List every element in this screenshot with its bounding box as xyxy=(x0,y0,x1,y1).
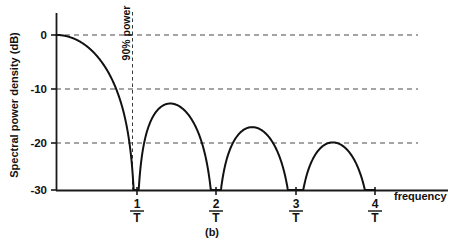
y-tick-label-0: 0 xyxy=(41,29,47,41)
spectral-density-curve xyxy=(57,35,375,190)
x-tick-label-3overT: 3 T xyxy=(289,197,303,225)
x-tick-3overT-denominator: T xyxy=(292,211,300,225)
x-tick-label-2overT: 2 T xyxy=(209,197,223,225)
y-tick-label-minus10: -10 xyxy=(30,83,47,95)
x-axis-title: frequency xyxy=(394,190,447,202)
x-tick-3overT-numerator: 3 xyxy=(293,197,300,211)
x-tick-2overT-numerator: 2 xyxy=(213,197,220,211)
axes xyxy=(56,13,448,191)
x-tick-1overT-denominator: T xyxy=(133,211,141,225)
x-tick-4overT-denominator: T xyxy=(371,211,379,225)
y-tick-label-minus30: -30 xyxy=(30,184,47,196)
x-tick-2overT-denominator: T xyxy=(212,211,220,225)
ninety-percent-power-label: 90% power xyxy=(120,6,132,61)
ninety-percent-power-annotation: 90% power xyxy=(120,6,133,190)
spectral-power-density-figure: 0 -10 -20 -30 Spectral power density (dB… xyxy=(0,0,452,245)
x-tick-1overT-numerator: 1 xyxy=(134,197,141,211)
x-tick-4overT-numerator: 4 xyxy=(372,197,379,211)
y-axis-title: Spectral power density (dB) xyxy=(8,32,20,178)
x-tick-label-4overT: 4 T xyxy=(368,197,382,225)
y-tick-label-minus20: -20 xyxy=(30,137,47,149)
y-tick-labels: 0 -10 -20 -30 xyxy=(30,29,47,196)
x-tick-label-1overT: 1 T xyxy=(130,197,144,225)
gridlines xyxy=(56,35,418,143)
spectrum-plot-svg: 0 -10 -20 -30 Spectral power density (dB… xyxy=(0,0,452,245)
figure-caption: (b) xyxy=(205,226,219,238)
